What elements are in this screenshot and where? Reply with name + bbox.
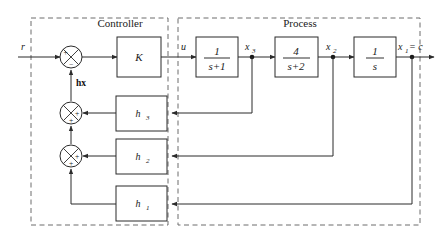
process-group-label: Process (283, 17, 317, 29)
tf2-denominator: s+2 (287, 60, 305, 72)
sum-middle-sign-right: + (75, 109, 79, 118)
block-diagram-canvas: Controller Process K 1 s+1 4 s+2 1 s h (0, 0, 438, 246)
tf1-numerator: 1 (214, 45, 220, 57)
gain-h1-subscript: 1 (146, 204, 150, 212)
wire-x1-to-h1 (172, 57, 412, 204)
svg-text:= c: = c (409, 41, 423, 52)
sum-top-junction[interactable]: + − (60, 46, 82, 69)
sum-top-sign-bottom: − (69, 60, 73, 69)
sum-top-sign-left: + (63, 48, 67, 57)
gain-k-label: K (134, 51, 143, 63)
svg-text:x: x (397, 41, 403, 52)
sum-middle-junction[interactable]: + + (60, 102, 82, 125)
svg-text:x: x (244, 41, 250, 52)
gain-h3-subscript: 3 (145, 114, 150, 122)
controller-group-label: Controller (97, 17, 143, 29)
gain-h3-label: h (136, 108, 141, 119)
tf1-denominator: s+1 (208, 60, 225, 72)
signal-label-x1-output: x 1 = c (397, 41, 423, 55)
tf3-denominator: s (373, 60, 377, 72)
gain-h2-block[interactable] (116, 139, 167, 174)
sum-lower-sign-bottom: + (69, 159, 73, 168)
signal-label-r: r (21, 41, 25, 52)
block-diagram-svg: Controller Process K 1 s+1 4 s+2 1 s h (0, 0, 438, 246)
signal-label-x2: x 2 (325, 41, 337, 55)
gain-h2-subscript: 2 (146, 157, 150, 165)
sum-lower-junction[interactable]: + + (60, 145, 82, 168)
svg-text:1: 1 (405, 47, 409, 55)
signal-label-hx: hx (76, 78, 86, 88)
gain-h1-block[interactable] (116, 186, 167, 221)
gain-h1-label: h (136, 198, 141, 209)
gain-h3-block[interactable] (116, 96, 167, 131)
sum-lower-sign-right: + (75, 152, 79, 161)
svg-text:2: 2 (333, 47, 337, 55)
svg-text:x: x (325, 41, 331, 52)
svg-text:3: 3 (251, 47, 256, 55)
tf3-numerator: 1 (372, 45, 378, 57)
wire-h1-to-sum-lower (71, 169, 116, 204)
gain-h2-label: h (136, 151, 141, 162)
signal-label-u: u (181, 41, 186, 52)
tf2-numerator: 4 (293, 45, 299, 57)
signal-label-x3: x 3 (244, 41, 256, 55)
sum-middle-sign-bottom: + (69, 116, 73, 125)
